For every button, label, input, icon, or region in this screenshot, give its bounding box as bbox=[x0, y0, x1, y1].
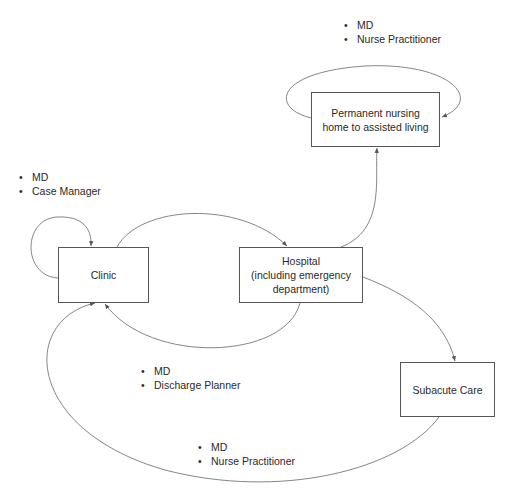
staff-item: MD bbox=[141, 364, 240, 378]
label-subacute-staff: MD Nurse Practitioner bbox=[198, 440, 295, 468]
node-clinic: Clinic bbox=[58, 247, 149, 303]
node-hospital-line-3: department) bbox=[251, 282, 351, 296]
staff-item: Nurse Practitioner bbox=[344, 32, 441, 46]
edge-clinic-to-hospital bbox=[117, 213, 287, 247]
node-subacute-care: Subacute Care bbox=[400, 362, 495, 417]
node-nursing-home-line-1: Permanent nursing bbox=[322, 106, 428, 120]
node-hospital-line-2: (including emergency bbox=[251, 268, 351, 282]
staff-item: MD bbox=[19, 170, 101, 184]
label-discharge-staff: MD Discharge Planner bbox=[141, 364, 240, 392]
edge-hospital-to-nursing bbox=[341, 148, 377, 247]
node-nursing-home-line-2: home to assisted living bbox=[322, 120, 428, 134]
staff-item: MD bbox=[344, 18, 441, 32]
label-nursing-home-staff: MD Nurse Practitioner bbox=[344, 18, 441, 46]
label-clinic-staff: MD Case Manager bbox=[19, 170, 101, 198]
node-hospital: Hospital (including emergency department… bbox=[239, 247, 363, 303]
staff-item: Case Manager bbox=[19, 184, 101, 198]
node-clinic-label: Clinic bbox=[91, 268, 117, 282]
node-nursing-home: Permanent nursing home to assisted livin… bbox=[311, 92, 440, 147]
staff-item: Discharge Planner bbox=[141, 378, 240, 392]
node-hospital-line-1: Hospital bbox=[251, 254, 351, 268]
staff-item: MD bbox=[198, 440, 295, 454]
edge-hospital-to-subacute bbox=[363, 277, 455, 361]
node-subacute-label: Subacute Care bbox=[412, 383, 482, 397]
edge-hospital-to-clinic bbox=[105, 303, 300, 348]
staff-item: Nurse Practitioner bbox=[198, 454, 295, 468]
